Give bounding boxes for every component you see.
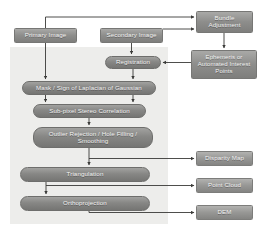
node-primary-image[interactable]: Primary Image: [14, 28, 77, 43]
node-triangulation[interactable]: Triangulation: [20, 167, 150, 182]
node-registration[interactable]: Registration: [105, 56, 161, 69]
node-dem[interactable]: DEM: [196, 205, 253, 220]
diagram-canvas: Primary ImageSecondary ImageBundle Adjus…: [0, 0, 268, 237]
node-secondary-image[interactable]: Secondary Image: [100, 28, 163, 43]
node-stereo-correlation[interactable]: Sub-pixel Stereo Correlation: [33, 104, 146, 118]
node-mask-log[interactable]: Mask / Sign of Laplacian of Gaussian: [22, 81, 156, 95]
node-bundle-adjustment[interactable]: Bundle Adjustment: [196, 11, 253, 33]
node-ephemeris[interactable]: Ephemeris or Automated Interest Points: [191, 50, 257, 79]
node-point-cloud[interactable]: Point Cloud: [196, 178, 253, 193]
wire-primary-to-bundle: [46, 17, 195, 28]
node-disparity-map[interactable]: Disparity Map: [196, 151, 253, 166]
node-outlier-rejection[interactable]: Outlier Rejection / Hole Filling / Smoot…: [33, 127, 153, 148]
node-orthoprojection[interactable]: Orthoprojection: [20, 196, 150, 211]
